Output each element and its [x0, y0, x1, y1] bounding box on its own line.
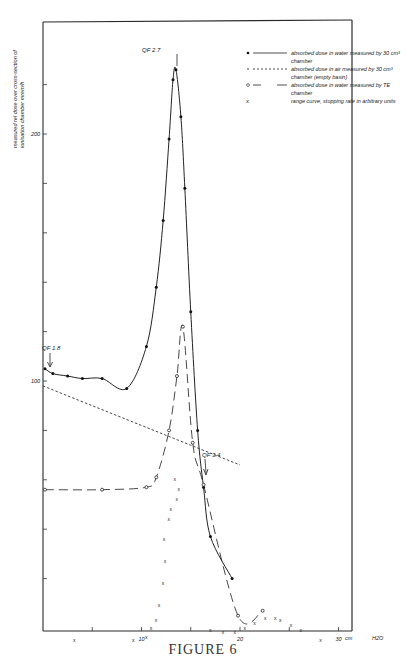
annotation-qf-entry: QF 1.8	[42, 345, 61, 367]
legend-item-water-dose: absorbed dose in water measured by 30 cm…	[245, 50, 405, 65]
data-point	[196, 429, 199, 432]
range-cross-marker: x	[173, 476, 176, 482]
legend-item-air-dose: absorbed dose in air measured by 30 cm³ …	[245, 66, 405, 81]
figure-caption: FIGURE 6	[0, 642, 406, 658]
dotted-line-icon	[245, 66, 289, 74]
range-cross-marker: x	[162, 580, 165, 586]
range-cross-marker: x	[150, 625, 153, 631]
data-point	[172, 78, 175, 81]
range-cross-marker: x	[155, 617, 158, 623]
legend-item-range-curve: x range curve, stopping rate in arbitrar…	[245, 98, 405, 106]
data-point	[189, 310, 192, 313]
data-point	[179, 115, 182, 118]
range-cross-marker: x	[279, 617, 282, 623]
annotation-qf-tail: QF 3.4	[202, 452, 221, 475]
data-point	[191, 441, 194, 444]
data-point	[43, 488, 46, 491]
data-point	[168, 137, 171, 140]
legend-text: absorbed dose in air measured by 30 cm³ …	[291, 66, 405, 81]
cross-marker-icon: x	[245, 98, 289, 106]
plot-frame	[43, 20, 352, 631]
range-cross-marker: x	[145, 634, 148, 640]
range-cross-marker: x	[175, 496, 178, 502]
legend-text: absorbed dose in water measured by TE ch…	[291, 82, 405, 97]
svg-text:QF 1.8: QF 1.8	[42, 345, 61, 351]
svg-text:QF 2.7: QF 2.7	[142, 47, 161, 53]
y-axis-label: measured rel dose over cross-section of …	[4, 36, 34, 156]
data-point	[175, 375, 178, 378]
annotation-qf-peak: QF 2.7	[142, 47, 177, 66]
y-tick-labels: 100200	[30, 131, 41, 384]
range-cross-marker: x	[253, 620, 256, 626]
svg-text:QF 3.4: QF 3.4	[202, 452, 221, 458]
series-water-dose-line	[45, 67, 232, 579]
data-point	[237, 614, 240, 617]
range-cross-marker: x	[209, 627, 212, 633]
svg-text:x: x	[245, 98, 250, 104]
data-point	[66, 375, 69, 378]
data-point	[155, 286, 158, 289]
range-cross-marker: x	[163, 536, 166, 542]
dashed-line-circle-icon	[245, 82, 289, 90]
legend-text: absorbed dose in water measured by 30 cm…	[291, 50, 405, 65]
data-point	[101, 377, 104, 380]
range-cross-marker: x	[222, 629, 225, 635]
y-axis-ticks	[43, 85, 47, 579]
data-point	[145, 486, 148, 489]
x-unit-h2o: H2O	[372, 635, 384, 641]
data-point	[183, 187, 186, 190]
range-cross-marker: x	[177, 486, 180, 492]
solid-line-dot-icon	[245, 50, 289, 58]
data-point	[81, 377, 84, 380]
y-axis-label-text: measured rel dose over cross-section of …	[12, 30, 26, 148]
range-cross-marker: x	[264, 615, 267, 621]
range-cross-marker: x	[234, 629, 237, 635]
x-axis-unit: cm H2O	[345, 635, 384, 641]
series-range-curve-markers: xxxxxxxxxxxxxxxxxxxxxxxxx	[73, 476, 322, 643]
data-point	[125, 387, 128, 390]
range-cross-marker: x	[158, 602, 161, 608]
data-point	[174, 68, 177, 71]
range-cross-marker: x	[300, 627, 303, 633]
series-te-chamber-line	[45, 325, 263, 624]
data-point	[181, 325, 184, 328]
series-te-chamber-markers	[43, 325, 264, 617]
range-cross-marker: x	[290, 622, 293, 628]
data-point	[231, 577, 234, 580]
range-cross-marker: x	[170, 506, 173, 512]
data-point	[51, 372, 54, 375]
legend: absorbed dose in water measured by 30 cm…	[245, 50, 405, 107]
range-cross-marker: x	[164, 558, 167, 564]
data-point	[202, 483, 205, 486]
data-point	[261, 609, 264, 612]
data-point	[155, 476, 158, 479]
legend-item-te-chamber: absorbed dose in water measured by TE ch…	[245, 82, 405, 97]
data-point	[145, 345, 148, 348]
data-point	[162, 219, 165, 222]
range-cross-marker: x	[274, 615, 277, 621]
x-unit-cm: cm	[345, 635, 353, 641]
data-point	[101, 488, 104, 491]
range-cross-marker: x	[168, 516, 171, 522]
data-point	[43, 367, 46, 370]
data-point	[209, 535, 212, 538]
range-cross-marker: x	[243, 625, 246, 631]
legend-text: range curve, stopping rate in arbitrary …	[291, 98, 405, 106]
y-tick-label: 100	[31, 378, 41, 384]
data-point	[168, 429, 171, 432]
